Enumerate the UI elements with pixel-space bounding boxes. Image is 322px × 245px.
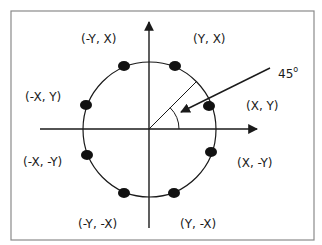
point-y-x <box>169 61 181 71</box>
label-x-neg-y: (X, -Y) <box>237 156 272 170</box>
point-y-neg-x <box>168 188 180 198</box>
label-neg-y-neg-x: (-Y, -X) <box>78 217 117 231</box>
label-x-y: (X, Y) <box>246 99 279 113</box>
label-neg-x-neg-y: (-X, -Y) <box>23 155 62 169</box>
label-y-x: (Y, X) <box>193 32 226 46</box>
label-y-neg-x: (Y, -X) <box>180 217 216 231</box>
point-x-y <box>203 101 215 111</box>
label-neg-y-x: (-Y, X) <box>81 32 116 46</box>
point-neg-y-neg-x <box>118 188 130 198</box>
point-neg-x-y <box>80 100 92 110</box>
degree-symbol: o <box>293 65 298 74</box>
point-neg-x-neg-y <box>81 150 93 160</box>
angle-value: 45 <box>278 67 293 81</box>
label-neg-x-y: (-X, Y) <box>25 90 61 104</box>
eight-way-symmetry-diagram: (-Y, X) (Y, X) (-X, Y) (X, Y) (-X, -Y) (… <box>0 0 322 245</box>
diagram-frame <box>11 11 314 240</box>
point-x-neg-y <box>205 147 217 157</box>
point-neg-y-x <box>118 61 130 71</box>
